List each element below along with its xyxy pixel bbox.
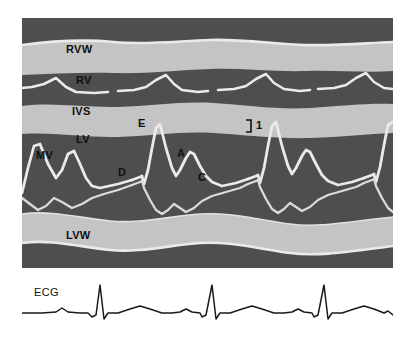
label-point-e: E xyxy=(138,118,146,129)
label-point-a: A xyxy=(177,148,185,159)
label-point-d: D xyxy=(118,167,126,178)
measurement-label: 1 xyxy=(256,120,262,131)
label-mv: MV xyxy=(36,150,53,161)
ecg-trace xyxy=(22,275,393,337)
label-lvw: LVW xyxy=(66,230,91,241)
ecg-strip xyxy=(22,275,393,337)
ecg-label: ECG xyxy=(34,286,59,298)
ecg-waveform xyxy=(22,285,393,319)
label-point-c: C xyxy=(198,172,206,183)
label-rv: RV xyxy=(76,75,92,86)
label-rvw: RVW xyxy=(66,44,92,55)
label-lv: LV xyxy=(76,134,90,145)
label-ivs: IVS xyxy=(72,106,91,117)
echocardiogram-figure: RVW RV IVS LV MV LVW E A C D 1 ECG xyxy=(0,0,416,346)
